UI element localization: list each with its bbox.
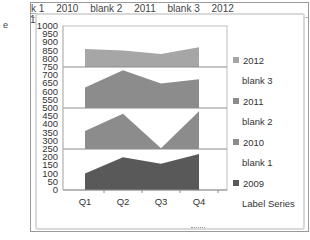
chart-legend[interactable]: 2012blank 32011blank 22010blank 12009Lab… [233,50,303,214]
area-series-2009[interactable] [85,154,199,190]
legend-item[interactable]: 2009 [233,173,303,194]
x-tick-label: Q1 [79,196,92,207]
legend-item[interactable]: 2011 [233,91,303,112]
legend-item[interactable]: blank 3 [233,71,303,92]
legend-label: 2009 [243,178,264,189]
legend-label: 2012 [243,55,264,66]
legend-label: Label Series [233,198,295,209]
legend-item[interactable]: 2012 [233,50,303,71]
legend-swatch-icon [233,98,239,104]
x-tick-label: Q4 [193,196,206,207]
legend-item[interactable]: 2010 [233,132,303,153]
area-series-2012[interactable] [85,47,199,67]
legend-item[interactable]: Label Series [233,194,303,215]
legend-label: blank 1 [233,157,273,168]
legend-item[interactable]: blank 1 [233,153,303,174]
legend-label: 2010 [243,137,264,148]
legend-label: blank 2 [233,116,273,127]
legend-label: 2011 [243,96,263,107]
legend-item[interactable]: blank 2 [233,112,303,133]
legend-swatch-icon [233,139,239,145]
x-tick-label: Q2 [117,196,130,207]
area-series-2011[interactable] [85,70,199,108]
legend-swatch-icon [233,180,239,186]
y-tick-label: 1000 [37,20,58,31]
x-tick-label: Q3 [155,196,168,207]
legend-label: blank 3 [233,75,273,86]
area-series-2010[interactable] [85,111,199,149]
legend-swatch-icon [233,57,239,63]
